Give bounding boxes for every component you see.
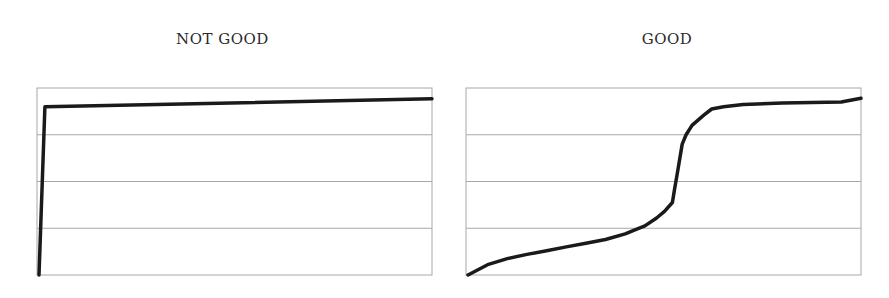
- plot-area: [37, 88, 432, 275]
- plots-canvas: [0, 0, 889, 298]
- plot-area: [466, 88, 861, 275]
- data-line: [468, 98, 861, 275]
- data-line: [39, 99, 432, 275]
